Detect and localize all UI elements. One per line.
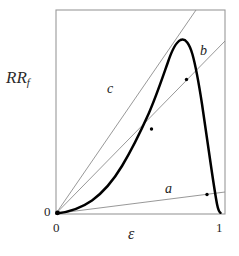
plot-frame (56, 10, 225, 214)
marker-line-c-touch (150, 127, 153, 130)
line-c-label: c (107, 82, 113, 96)
marker-line-a-cross (205, 193, 208, 196)
marker-origin (55, 210, 60, 215)
y-axis-label-subscript: f (27, 76, 30, 88)
x-axis-tick-1: 1 (216, 221, 223, 234)
y-axis-tick-0: 0 (44, 205, 51, 218)
marker-line-b-touch (185, 78, 188, 81)
line-b-label: b (200, 44, 207, 58)
line-b (56, 41, 225, 214)
chart-figure: RRf ε 0 0 1 a b c (0, 0, 239, 256)
y-axis-label-text: RR (6, 68, 27, 87)
x-axis-label: ε (128, 226, 134, 242)
plot-area (0, 0, 239, 256)
line-a-label: a (165, 182, 172, 196)
line-c (56, 10, 196, 214)
line-a (56, 192, 225, 214)
x-axis-tick-0: 0 (53, 221, 60, 234)
y-axis-label: RRf (6, 69, 30, 88)
